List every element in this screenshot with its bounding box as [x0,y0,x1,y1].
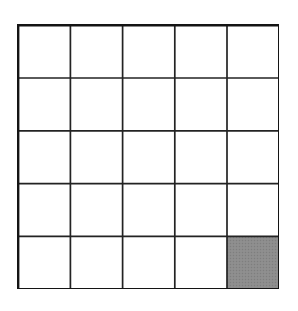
grid-cell [70,25,122,78]
grid-cell [175,236,227,289]
grid-cell [70,184,122,237]
figure-canvas [0,0,298,311]
grid-cell [175,184,227,237]
grid-cell [18,78,70,131]
grid-cell [18,25,70,78]
grid-cell [227,184,279,237]
grid-cell [70,236,122,289]
grid-cell [123,131,175,184]
grid-cell-shaded [227,236,279,289]
grid-cell [123,25,175,78]
grid-cell [18,184,70,237]
grid-cell [18,131,70,184]
grid-cell [123,78,175,131]
grid-cell [227,25,279,78]
grid-cell [227,78,279,131]
grid-diagram [17,24,279,289]
grid-cells-layer [18,25,279,289]
grid-svg [17,24,279,289]
grid-cell [175,78,227,131]
grid-cell [123,236,175,289]
grid-cell [175,25,227,78]
grid-cell [175,131,227,184]
grid-cell [18,236,70,289]
grid-cell [70,131,122,184]
grid-cell [227,131,279,184]
grid-cell [123,184,175,237]
grid-cell [70,78,122,131]
